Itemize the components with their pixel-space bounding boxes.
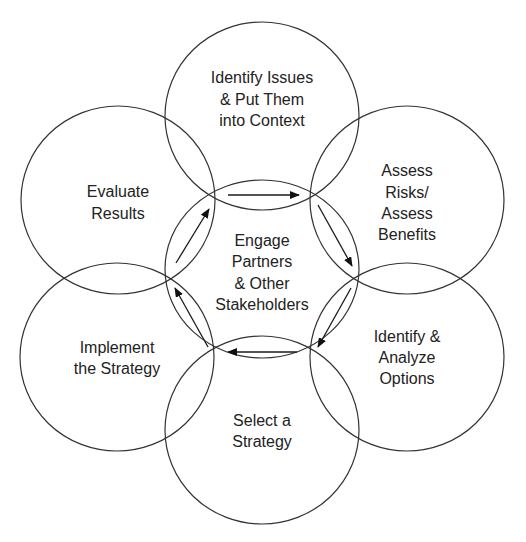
stage-label-evaluate-results: Evaluate Results bbox=[87, 183, 149, 222]
stage-label-analyze-options: Identify & Analyze Options bbox=[374, 328, 441, 387]
label-line: the Strategy bbox=[74, 360, 160, 377]
label-line: Implement bbox=[80, 339, 155, 356]
arrow-icon-evaluate-to-issues bbox=[176, 209, 209, 263]
diagram-svg: Identify Issues & Put Them into Context … bbox=[0, 0, 526, 542]
label-line: Risks/ bbox=[385, 184, 429, 201]
arrow-icon-options-to-select bbox=[318, 288, 351, 347]
label-line: Engage bbox=[234, 232, 289, 249]
stage-label-select-strategy: Select a Strategy bbox=[232, 412, 292, 450]
label-line: Assess bbox=[381, 205, 433, 222]
center-label-engage-partners: Engage Partners & Other Stakeholders bbox=[215, 232, 308, 313]
stage-label-assess-risks: Assess Risks/ Assess Benefits bbox=[378, 162, 436, 243]
label-line: Assess bbox=[381, 162, 433, 179]
stage-circle-select-strategy bbox=[165, 336, 359, 524]
label-line: Benefits bbox=[378, 226, 436, 243]
label-line: Strategy bbox=[232, 433, 292, 450]
label-line: Results bbox=[91, 205, 144, 222]
stage-circle-implement-strategy bbox=[20, 263, 214, 451]
label-line: Identify Issues bbox=[211, 69, 313, 86]
stage-circle-evaluate-results bbox=[21, 106, 215, 294]
label-line: Partners bbox=[232, 253, 292, 270]
label-line: Analyze bbox=[379, 349, 436, 366]
stage-label-identify-issues: Identify Issues & Put Them into Context bbox=[211, 69, 313, 129]
label-line: into Context bbox=[219, 112, 305, 129]
process-diagram: Identify Issues & Put Them into Context … bbox=[0, 0, 526, 542]
label-line: Evaluate bbox=[87, 183, 149, 200]
label-line: Select a bbox=[233, 412, 291, 429]
label-line: & Put Them bbox=[220, 91, 304, 108]
stage-label-implement-strategy: Implement the Strategy bbox=[74, 339, 160, 377]
label-line: Options bbox=[379, 370, 434, 387]
label-line: Identify & bbox=[374, 328, 441, 345]
label-line: Stakeholders bbox=[215, 296, 308, 313]
label-line: & Other bbox=[234, 275, 290, 292]
arrow-icon-assess-to-options bbox=[318, 205, 352, 266]
